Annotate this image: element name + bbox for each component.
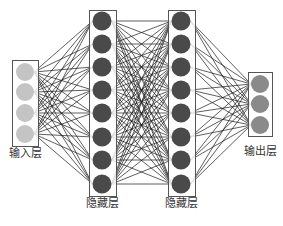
input-neuron-node	[16, 125, 34, 143]
connection-edge	[191, 104, 252, 184]
input-neuron-node	[16, 83, 34, 101]
connection-edge	[34, 134, 93, 184]
hidden1-neuron-node	[93, 128, 112, 147]
output-neuron-node	[251, 75, 269, 93]
connection-edge	[191, 21, 252, 125]
connection-edge	[191, 21, 252, 84]
connection-edge	[191, 113, 252, 125]
connection-edge	[34, 21, 93, 113]
connection-edge	[34, 67, 93, 92]
connection-edge	[191, 44, 252, 84]
hidden2-neuron-node	[172, 81, 191, 100]
hidden1-neuron-node	[93, 81, 112, 100]
hidden-layer-1-label: 隐藏层	[86, 198, 119, 210]
output-layer-label: 输出层	[244, 146, 277, 158]
output-neuron-node	[251, 95, 269, 113]
hidden2-neuron-node	[172, 35, 191, 54]
hidden2-neuron-node	[172, 175, 191, 194]
hidden1-neuron-node	[93, 175, 112, 194]
hidden1-neuron-node	[93, 151, 112, 170]
input-neuron-node	[16, 63, 34, 81]
hidden2-neuron-node	[172, 58, 191, 77]
network-graph	[0, 0, 283, 226]
connection-edges	[34, 21, 251, 184]
hidden1-neuron-node	[93, 104, 112, 123]
hidden2-neuron-node	[172, 104, 191, 123]
hidden2-neuron-node	[172, 128, 191, 147]
output-neuron-node	[251, 116, 269, 134]
input-layer-label: 输入层	[9, 148, 42, 160]
connection-edge	[34, 21, 93, 72]
hidden-layer-2-label: 隐藏层	[165, 198, 198, 210]
hidden1-neuron-node	[93, 58, 112, 77]
connection-edge	[191, 125, 252, 137]
hidden1-neuron-node	[93, 35, 112, 54]
hidden2-neuron-node	[172, 12, 191, 31]
input-neuron-node	[16, 104, 34, 122]
hidden2-neuron-node	[172, 151, 191, 170]
hidden1-neuron-node	[93, 12, 112, 31]
